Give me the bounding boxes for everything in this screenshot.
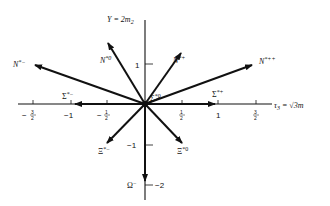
tick-y-minus-1: −1 — [127, 141, 137, 150]
horizontal-axis-label: τ3 = √3m — [274, 101, 304, 111]
tick-minus-1: −1 — [64, 111, 74, 120]
label-n-zero: N*0 — [99, 55, 111, 65]
tick-1-2-den: 2 — [180, 115, 183, 121]
label-sigma-minus: Σ*− — [62, 91, 74, 101]
label-sigma-zero: Σ*0 — [150, 93, 161, 103]
label-xi-zero: Ξ*0 — [177, 146, 188, 156]
decuplet-diagram: − 3 2 −1 − 1 2 1 2 1 3 2 1 −1 −2 Y = 2m2… — [0, 0, 330, 206]
label-n-minus: N*− — [12, 59, 25, 69]
tick-y-1: 1 — [135, 61, 140, 70]
arrow-n-minus — [35, 65, 145, 104]
tick-1: 1 — [216, 111, 221, 120]
origin-dot — [142, 101, 148, 107]
tick-minus-1-2-den: 2 — [105, 115, 108, 121]
state-labels: N*− N*0 N*+ N*++ Σ*− Σ*0 Σ*+ Ξ*− Ξ*0 Ω− — [12, 55, 275, 190]
tick-3-2-den: 2 — [254, 115, 257, 121]
tick-minus-1-2-sign: − — [97, 111, 102, 120]
arrow-xi-minus — [107, 104, 145, 143]
tick-minus-3-2-sign: − — [22, 111, 27, 120]
arrow-n-plusplus — [145, 65, 252, 104]
label-n-plus: N*+ — [172, 55, 185, 65]
horizontal-tick-labels: − 3 2 −1 − 1 2 1 2 1 3 2 — [22, 109, 259, 121]
tick-y-minus-2: −2 — [155, 181, 165, 190]
vertical-axis-label: Y = 2m2 — [107, 15, 134, 25]
label-xi-minus: Ξ*− — [98, 146, 110, 156]
label-sigma-plus: Σ*+ — [212, 89, 224, 99]
label-n-plusplus: N*++ — [258, 56, 275, 66]
vertical-ticks — [145, 64, 153, 185]
tick-minus-3-2-den: 2 — [31, 115, 34, 121]
label-omega-minus: Ω− — [127, 180, 137, 190]
arrow-xi-zero — [145, 104, 182, 143]
arrow-n-zero — [108, 43, 145, 104]
